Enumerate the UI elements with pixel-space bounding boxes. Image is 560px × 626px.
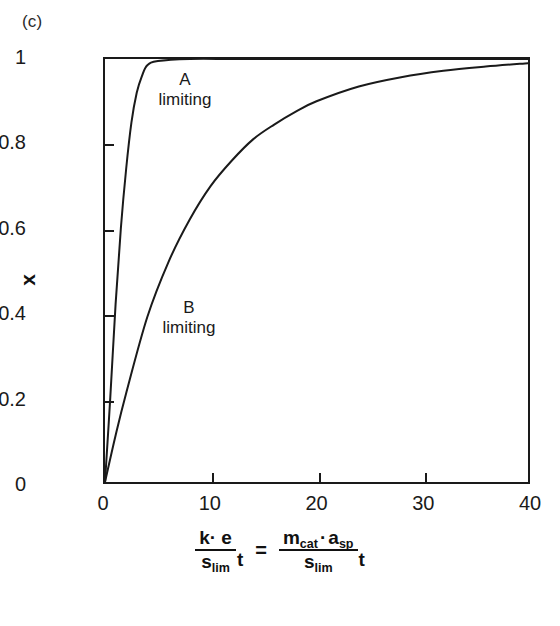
y-tick-label-0.4: 0.4 xyxy=(0,302,26,325)
fraction-right-variable: t xyxy=(359,549,365,572)
x-tick-30 xyxy=(425,473,427,482)
x-axis-term-left: k· e slim t xyxy=(195,528,243,572)
fraction-left-numerator: k· e xyxy=(195,528,236,549)
y-axis-title: x xyxy=(16,274,40,286)
x-tick-label-0: 0 xyxy=(97,492,108,515)
y-tick-label-0.8: 0.8 xyxy=(0,131,26,154)
equals-sign: = xyxy=(252,539,270,562)
y-tick-0.4 xyxy=(105,315,114,317)
x-tick-label-20: 20 xyxy=(305,492,327,515)
y-tick-label-0.2: 0.2 xyxy=(0,387,26,410)
curve-canvas xyxy=(105,59,528,482)
fraction-right-numerator: mcat·asp xyxy=(279,528,358,549)
x-axis-term-right: mcat·asp slim t xyxy=(279,528,365,572)
y-tick-label-1: 1 xyxy=(15,46,26,69)
fraction-left-variable: t xyxy=(237,549,243,572)
y-tick-label-0.6: 0.6 xyxy=(0,216,26,239)
x-tick-label-30: 30 xyxy=(412,492,434,515)
curve-b-limiting xyxy=(105,63,528,482)
panel-label: (c) xyxy=(22,12,42,32)
x-tick-label-40: 40 xyxy=(519,492,541,515)
y-tick-0.6 xyxy=(105,230,114,232)
annotation-a-limiting: A limiting xyxy=(146,70,224,110)
annotation-b-line2: limiting xyxy=(150,318,228,338)
y-tick-0.8 xyxy=(105,144,114,146)
annotation-a-line1: A xyxy=(146,70,224,90)
y-tick-label-0: 0 xyxy=(15,473,26,496)
x-tick-20 xyxy=(319,473,321,482)
y-tick-0.2 xyxy=(105,401,114,403)
plot-area xyxy=(103,57,530,484)
x-tick-10 xyxy=(212,473,214,482)
fraction-left: k· e slim xyxy=(195,528,236,572)
annotation-b-line1: B xyxy=(150,298,228,318)
annotation-b-limiting: B limiting xyxy=(150,298,228,338)
fraction-left-denominator: slim xyxy=(195,549,236,572)
x-axis-title: k· e slim t = mcat·asp slim t xyxy=(0,528,560,572)
fraction-right-denominator: slim xyxy=(279,549,358,572)
curve-a-limiting xyxy=(105,59,528,482)
annotation-a-line2: limiting xyxy=(146,90,224,110)
x-tick-label-10: 10 xyxy=(199,492,221,515)
fraction-right: mcat·asp slim xyxy=(279,528,358,572)
figure-panel: (c) x 00.20.40.60.81 010203040 A limitin… xyxy=(0,0,560,626)
